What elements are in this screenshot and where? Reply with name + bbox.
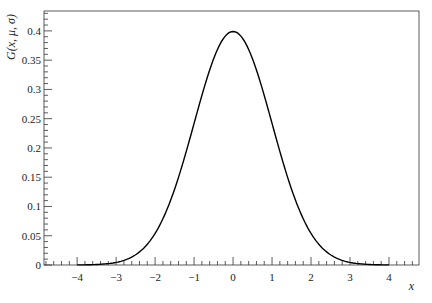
x-tick-label: 2 xyxy=(308,271,314,283)
x-tick-label: −2 xyxy=(149,271,161,283)
y-tick-label: 0.4 xyxy=(27,25,41,37)
y-tick-label: 0.2 xyxy=(27,142,41,154)
y-axis-tick-labels: 00.050.10.150.20.250.30.350.4 xyxy=(22,25,42,271)
y-tick-label: 0.25 xyxy=(22,113,42,125)
x-tick-label: −4 xyxy=(71,271,83,283)
x-tick-label: −1 xyxy=(188,271,200,283)
y-axis-title: G(x, μ, σ) xyxy=(4,14,18,60)
x-axis-tick-labels: −4−3−2−101234 xyxy=(71,271,392,283)
x-tick-label: 0 xyxy=(230,271,236,283)
y-tick-label: 0.05 xyxy=(22,230,42,242)
x-tick-label: 4 xyxy=(386,271,392,283)
y-tick-label: 0.35 xyxy=(22,54,42,66)
x-tick-label: −3 xyxy=(110,271,122,283)
plot-frame xyxy=(44,11,419,265)
y-tick-label: 0 xyxy=(36,259,42,271)
y-tick-label: 0.3 xyxy=(27,83,41,95)
x-tick-label: 3 xyxy=(347,271,353,283)
gaussian-chart: −4−3−2−101234 00.050.10.150.20.250.30.35… xyxy=(0,0,432,303)
x-tick-label: 1 xyxy=(269,271,275,283)
x-axis-title: x xyxy=(408,279,415,293)
y-tick-label: 0.15 xyxy=(22,171,42,183)
y-tick-label: 0.1 xyxy=(27,200,41,212)
